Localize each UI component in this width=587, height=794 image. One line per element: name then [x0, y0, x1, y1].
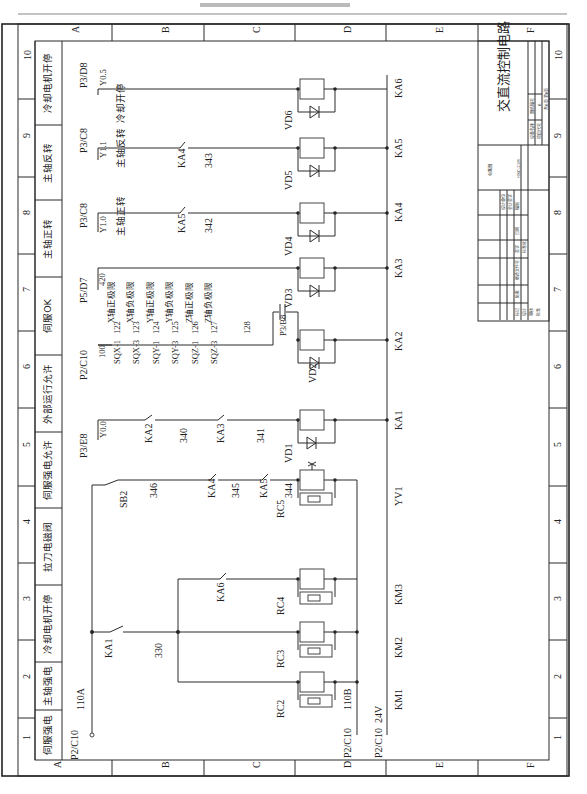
sheet-info: 共6页 第6页	[543, 88, 549, 110]
col-num-3: 3	[21, 596, 32, 601]
vd5-label: VD5	[283, 171, 294, 190]
wire-340: 340	[178, 428, 189, 443]
label-x-neg: X轴负极限	[125, 281, 135, 323]
row-label-f-bottom: F	[525, 762, 536, 768]
label-z-pos: Z轴正极限	[184, 282, 194, 323]
wire-346: 346	[148, 483, 159, 498]
col-num-9: 9	[21, 133, 32, 138]
ka3-contact-label: KA3	[215, 424, 226, 443]
coil-label-yv1: YV1	[393, 487, 404, 506]
tb-cell: 批准	[535, 308, 541, 316]
header-col10: 冷却电机开停	[42, 53, 53, 113]
ref-p5d7: P5/D7	[78, 277, 89, 303]
col-num-7-right: 7	[552, 287, 563, 292]
frame-border	[18, 24, 567, 776]
col-num-1-right: 1	[552, 735, 563, 740]
wire-128: 128	[242, 321, 252, 334]
row-label-band-bottom: A B C D E F	[52, 760, 536, 776]
column-number-band-right: 10 9 8 7 6 5 4 3 2 1	[549, 50, 567, 740]
vd2-label: VD2	[307, 364, 318, 383]
col-num-1: 1	[21, 735, 32, 740]
rc3-label: RC3	[275, 650, 286, 668]
row-label-a: A	[70, 25, 81, 33]
wire-110a: 110A	[75, 687, 86, 710]
tb-cell: 编制	[514, 202, 520, 210]
coil-label-ka4: KA4	[393, 203, 404, 222]
sqy3-label: SQY-3	[170, 341, 180, 364]
tb-cell: 会计签字	[507, 194, 513, 210]
circuit-coolant: P3/D8 Y0.5 冷却开停 VD6	[78, 62, 387, 130]
sheet-number: 6	[537, 103, 542, 106]
row-label-e: E	[434, 27, 445, 33]
tb-cell: 标记	[514, 308, 520, 316]
sqx3-label: SQX-3	[131, 340, 141, 364]
col-num-6: 6	[21, 364, 32, 369]
header-col8: 主轴正转	[42, 219, 53, 259]
ka6-contact-label: KA6	[215, 583, 226, 602]
row-label-c-bottom: C	[251, 761, 262, 768]
ac-110v-circuit: P2/C10 110A SB2 KA1 330 KA6 346 KA4 345 …	[69, 474, 298, 760]
col-num-8: 8	[21, 210, 32, 215]
wire-343: 343	[203, 153, 214, 168]
drawing-title: 交直流控制电路	[496, 21, 511, 112]
ref-p3c8-a: P3/C8	[78, 203, 89, 228]
sb2-label: SB2	[118, 491, 129, 508]
circuit-spindle-forward: P3/C8 Y1.0 主轴正转 KA5 342 VD4	[78, 196, 389, 256]
col-num-3-right: 3	[552, 596, 563, 601]
col-num-4-right: 4	[552, 519, 563, 524]
col-num-2: 2	[21, 674, 32, 679]
model: HNC-21M	[516, 159, 521, 178]
col-num-10-right: 10	[553, 50, 564, 60]
coil-label-ka3: KA3	[393, 259, 404, 278]
ref-p2c10-110a: P2/C10	[69, 730, 80, 760]
wire-342: 342	[203, 218, 214, 233]
coil-label-km3: KM3	[393, 584, 404, 605]
label-y-pos: Y轴正极限	[145, 281, 155, 323]
ka4-contact-b-label: KA4	[176, 149, 187, 168]
ref-p2c10-24v: P2/C10	[373, 728, 384, 758]
coil-km3: RC4	[275, 569, 337, 615]
column-number-band-left: 10 9 8 7 6 5 4 3 2 1	[18, 50, 35, 740]
col-num-6-right: 6	[552, 364, 563, 369]
col-num-9-right: 9	[552, 133, 563, 138]
wire-110b: 110B	[342, 688, 353, 710]
row-label-e-bottom: E	[434, 762, 445, 768]
header-col3: 冷却电机开停	[42, 594, 53, 654]
circuit-spindle-reverse: P3/C8 Y1.1 主轴反转 KA4 343 VD5	[78, 128, 389, 190]
coil-label-km2: KM2	[393, 637, 404, 658]
ref-p2c10-ext: P2/C10	[78, 350, 89, 380]
wire-420: 420	[97, 273, 107, 286]
coil-km1: RC2	[275, 672, 337, 718]
label-y-neg: Y轴负极限	[164, 281, 174, 323]
header-col4: 拉刀电磁阀	[42, 522, 53, 572]
tb-cell: 设计	[521, 308, 527, 316]
label-design-name: 设备名称	[529, 123, 535, 139]
header-col2: 主轴强电	[42, 666, 53, 706]
header-col7: 伺服OK	[42, 298, 53, 332]
col-num-4: 4	[21, 519, 32, 524]
row-label-d-bottom: D	[342, 761, 353, 768]
circuit-external-run: P2/C10 100 P3/B8 SQX-1 SQX-3 SQY-1 SQY-3…	[78, 281, 389, 383]
ka4-contact-label: KA4	[206, 479, 217, 498]
sqz1-label: SQZ-1	[190, 341, 200, 364]
ref-p3e8: P3/E8	[78, 434, 89, 458]
tb-cell: 更改文件号	[514, 260, 520, 280]
label-x-pos: X轴正极限	[106, 281, 116, 323]
label-drawing-no: 图纸编号	[529, 98, 535, 114]
row-label-a-bottom: A	[52, 760, 63, 768]
wire-341: 341	[255, 428, 266, 443]
row-label-c: C	[251, 26, 262, 33]
label-project-code: 项目代号	[536, 123, 542, 139]
coil-label-ka5: KA5	[393, 139, 404, 158]
col-num-10: 10	[22, 50, 33, 60]
vd6-label: VD6	[283, 111, 294, 130]
vd1-label: VD1	[283, 444, 294, 463]
col-num-5-right: 5	[552, 442, 563, 447]
io-y10: Y1.0	[98, 216, 108, 233]
row-label-f: F	[525, 27, 536, 33]
header-col9: 主轴反转	[42, 143, 53, 183]
row-label-b: B	[160, 26, 171, 33]
io-y00: Y0.0	[98, 421, 108, 438]
sqx1-label: SQX-1	[112, 340, 122, 364]
coil-label-ka1: KA1	[393, 411, 404, 430]
